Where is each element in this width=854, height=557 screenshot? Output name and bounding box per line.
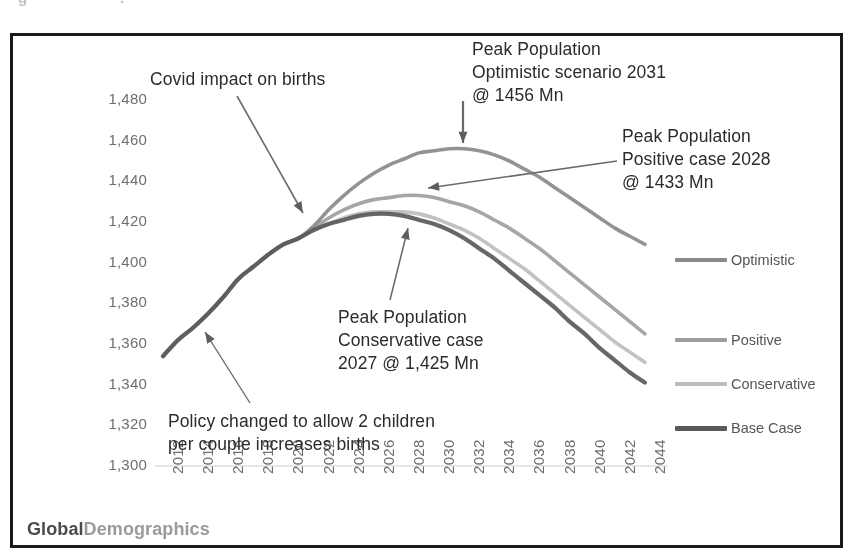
- annotation-covid: Covid impact on births: [150, 68, 325, 91]
- annotation-policy: Policy changed to allow 2 childrenper co…: [168, 410, 435, 456]
- annotation-line: Covid impact on births: [150, 68, 325, 91]
- legend-item-optimistic[interactable]: Optimistic: [675, 252, 795, 268]
- arrow-covid-impact: [237, 96, 303, 213]
- annotation-line: @ 1433 Mn: [622, 171, 771, 194]
- legend-line-swatch: [675, 426, 727, 431]
- annotation-line: Conservative case: [338, 329, 484, 352]
- legend-label: Conservative: [731, 376, 816, 392]
- legend-item-base-case[interactable]: Base Case: [675, 420, 802, 436]
- annotation-line: Optimistic scenario 2031: [472, 61, 666, 84]
- y-axis-tick-label: 1,400: [85, 253, 147, 270]
- annotation-line: Peak Population: [472, 38, 666, 61]
- annotation-line: Peak Population: [622, 125, 771, 148]
- annotation-positive: Peak PopulationPositive case 2028@ 1433 …: [622, 125, 771, 194]
- watermark-globaldemographics: GlobalDemographics: [27, 519, 210, 540]
- y-axis-tick-label: 1,340: [85, 375, 147, 392]
- arrow-positive-peak: [428, 161, 617, 191]
- y-axis-tick-label: 1,320: [85, 415, 147, 432]
- legend-label: Base Case: [731, 420, 802, 436]
- x-axis-tick-label: 2040: [591, 439, 608, 474]
- annotation-line: per couple increases births: [168, 433, 435, 456]
- annotation-line: Positive case 2028: [622, 148, 771, 171]
- x-axis-tick-label: 2032: [470, 439, 487, 474]
- x-axis-tick-label: 2042: [621, 439, 638, 474]
- legend-label: Optimistic: [731, 252, 795, 268]
- arrow-policy-change: [205, 332, 250, 403]
- chart-plot-area: [0, 0, 854, 557]
- legend-line-swatch: [675, 258, 727, 262]
- arrow-optimistic-peak: [459, 101, 468, 143]
- y-axis-tick-label: 1,300: [85, 456, 147, 473]
- y-axis-tick-label: 1,440: [85, 171, 147, 188]
- y-axis-tick-label: 1,420: [85, 212, 147, 229]
- annotation-line: Policy changed to allow 2 children: [168, 410, 435, 433]
- watermark-part-global: Global: [27, 519, 84, 539]
- legend-item-conservative[interactable]: Conservative: [675, 376, 816, 392]
- annotation-optimistic: Peak PopulationOptimistic scenario 2031@…: [472, 38, 666, 107]
- legend-line-swatch: [675, 382, 727, 386]
- y-axis-tick-label: 1,360: [85, 334, 147, 351]
- y-axis-tick-label: 1,460: [85, 131, 147, 148]
- legend-line-swatch: [675, 338, 727, 342]
- x-axis-tick-label: 2036: [530, 439, 547, 474]
- annotation-line: @ 1456 Mn: [472, 84, 666, 107]
- legend-item-positive[interactable]: Positive: [675, 332, 782, 348]
- arrow-conservative-peak: [390, 228, 410, 300]
- annotation-line: 2027 @ 1,425 Mn: [338, 352, 484, 375]
- annotation-conservative: Peak PopulationConservative case2027 @ 1…: [338, 306, 484, 375]
- y-axis-tick-label: 1,480: [85, 90, 147, 107]
- x-axis-tick-label: 2044: [651, 439, 668, 474]
- x-axis-tick-label: 2030: [440, 439, 457, 474]
- x-axis-tick-label: 2034: [500, 439, 517, 474]
- y-axis-tick-label: 1,380: [85, 293, 147, 310]
- x-axis-tick-label: 2038: [561, 439, 578, 474]
- annotation-line: Peak Population: [338, 306, 484, 329]
- watermark-part-demographics: Demographics: [84, 519, 210, 539]
- legend-label: Positive: [731, 332, 782, 348]
